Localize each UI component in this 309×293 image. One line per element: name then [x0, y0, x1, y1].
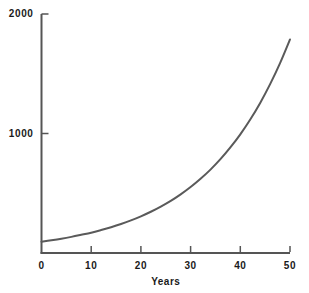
- chart-container: 10002000 01020304050 Years: [0, 0, 309, 293]
- x-axis-tick-label: 30: [171, 261, 211, 271]
- data-series-line: [42, 39, 291, 241]
- x-axis-tick-label: 20: [121, 261, 161, 271]
- x-axis-tick-label: 10: [71, 261, 111, 271]
- x-axis-tick-label: 50: [270, 261, 309, 271]
- chart-plot-area: [0, 0, 309, 293]
- y-axis-ticks: [42, 14, 49, 134]
- x-axis-ticks: [91, 246, 290, 252]
- x-axis-tick-label: 0: [22, 261, 62, 271]
- y-axis-tick-label: 1000: [0, 129, 34, 139]
- x-axis-tick-label: 40: [220, 261, 260, 271]
- x-axis-title: Years: [42, 277, 291, 287]
- data-series-group: [42, 39, 291, 241]
- y-axis-tick-label: 2000: [0, 9, 34, 19]
